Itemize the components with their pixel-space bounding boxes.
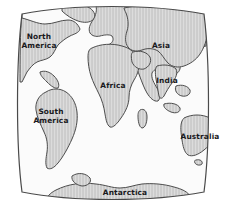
australia-landmass — [181, 115, 218, 156]
world-map-figure: North America South America Africa Asia … — [0, 0, 226, 206]
new-zealand-island — [212, 155, 221, 164]
world-map-graphic — [0, 0, 226, 206]
madagascar-island — [138, 109, 147, 128]
tasmania-island — [195, 160, 203, 165]
